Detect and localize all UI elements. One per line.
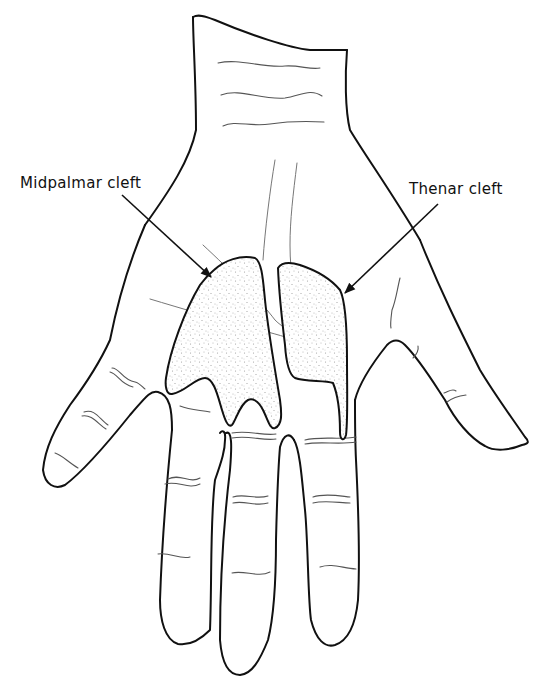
middle-finger-base-crease	[232, 432, 276, 434]
wrist-crease-2	[221, 93, 322, 99]
thenar-cleft-region	[278, 263, 347, 439]
index-finger-base-crease-b	[305, 442, 356, 444]
wrist-top-edge	[193, 16, 347, 50]
arrow-midpalmar	[122, 195, 211, 277]
thumb-outline	[355, 240, 528, 450]
ring-finger-crease-1	[168, 477, 200, 480]
index-finger-crease-1	[313, 495, 350, 497]
ring-finger-base-crease	[180, 406, 210, 412]
index-finger-outline	[294, 400, 359, 646]
wrist-left-edge	[145, 17, 196, 225]
thumb	[355, 240, 528, 450]
wrist	[145, 16, 420, 240]
ring-finger-outline	[160, 430, 225, 644]
middle-finger	[220, 432, 294, 675]
palm-line-a	[263, 160, 275, 260]
hand-diagram: Midpalmar cleft Thenar cleft	[0, 0, 548, 685]
little-finger-crease-2b	[82, 416, 106, 429]
label-thenar-cleft: Thenar cleft	[345, 180, 503, 293]
thumb-crease-1	[391, 278, 400, 328]
ulnar-side	[43, 225, 172, 487]
ring-finger	[158, 406, 225, 644]
wrist-crease-3	[223, 121, 324, 126]
thumb-crease-3	[444, 390, 456, 393]
little-finger-crease-2	[84, 411, 108, 425]
index-finger-base-crease	[305, 437, 356, 440]
label-midpalmar-cleft: Midpalmar cleft	[20, 174, 211, 277]
little-finger-crease-3	[55, 453, 78, 468]
middle-finger-base-crease-b	[232, 437, 276, 439]
index-finger-crease-1b	[313, 502, 350, 503]
index-finger-crease-2	[320, 565, 356, 569]
middle-finger-outline	[220, 433, 294, 675]
palm-left-edge	[43, 225, 172, 487]
ring-finger-crease-1b	[165, 483, 200, 486]
label-thenar-text: Thenar cleft	[408, 180, 503, 198]
midpalmar-cleft-region	[166, 257, 281, 428]
middle-finger-crease-1b	[233, 502, 268, 504]
thumb-crease-3b	[447, 395, 466, 402]
middle-finger-crease-2	[232, 572, 270, 574]
index-finger	[294, 400, 359, 646]
middle-finger-crease-1	[233, 496, 268, 498]
wrist-right-edge	[346, 50, 420, 240]
label-midpalmar-text: Midpalmar cleft	[20, 174, 141, 192]
wrist-crease-1	[218, 62, 320, 69]
